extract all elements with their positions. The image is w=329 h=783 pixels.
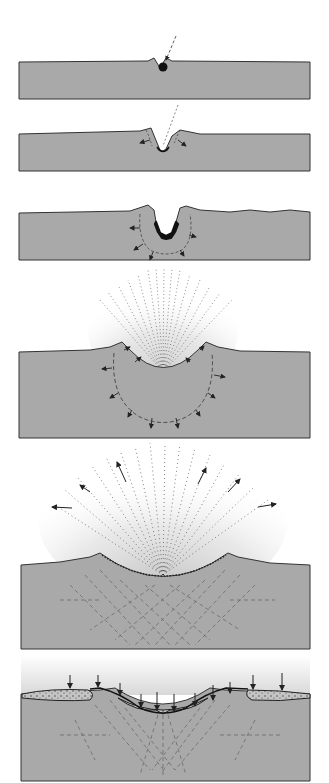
impact-crater-diagram — [0, 0, 329, 783]
trajectory-line — [166, 36, 176, 60]
panel-1-contact — [19, 36, 310, 99]
ground-block — [19, 128, 310, 171]
panel-5-ejecta-fan — [21, 440, 310, 649]
panel-6-modification — [21, 655, 310, 781]
panel-3-compression — [19, 205, 310, 260]
ground-block — [19, 205, 310, 260]
panel-4-excavation — [19, 265, 310, 438]
ground-block — [21, 688, 310, 781]
settling-dust — [21, 655, 310, 695]
projectile-icon — [159, 63, 168, 72]
panel-2-penetration — [19, 105, 310, 171]
